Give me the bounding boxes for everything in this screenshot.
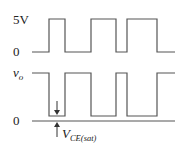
waveform-diagram: 5V 0 vo 0 VCE(sat) bbox=[0, 0, 187, 147]
label-zero-bottom: 0 bbox=[13, 113, 20, 128]
label-zero-top: 0 bbox=[13, 44, 20, 59]
waveform-svg: 5V 0 vo 0 VCE(sat) bbox=[0, 0, 187, 147]
label-vce-sat: VCE(sat) bbox=[62, 126, 97, 143]
label-vo: vo bbox=[13, 65, 24, 82]
vce-sat-arrows bbox=[54, 101, 60, 137]
input-waveform bbox=[32, 19, 175, 52]
label-5v: 5V bbox=[13, 12, 30, 27]
output-waveform bbox=[32, 73, 175, 116]
